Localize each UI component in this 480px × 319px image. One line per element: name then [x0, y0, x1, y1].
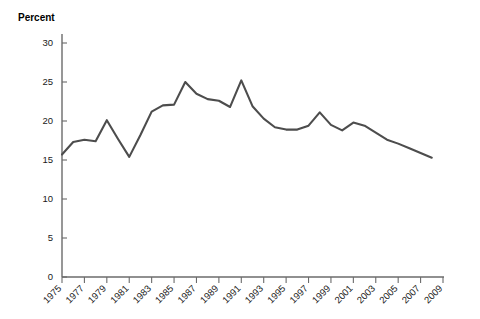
- y-axis-tick-labels: 302520151050: [42, 37, 53, 282]
- x-tick-label: 1997: [287, 283, 310, 306]
- x-tick-label: 1983: [130, 283, 153, 306]
- y-axis-title: Percent: [18, 12, 55, 23]
- x-tick-label: 1975: [41, 283, 64, 306]
- x-tick-label: 2001: [332, 283, 355, 306]
- y-tick-label: 25: [42, 76, 53, 87]
- y-tick-label: 20: [42, 115, 53, 126]
- x-tick-label: 1977: [63, 283, 86, 306]
- x-tick-label: 1985: [153, 283, 176, 306]
- x-tick-label: 1991: [220, 283, 243, 306]
- x-tick-label: 1993: [242, 283, 265, 306]
- x-tick-label: 2007: [399, 283, 422, 306]
- x-axis-tick-marks: [62, 277, 443, 283]
- y-tick-label: 15: [42, 154, 53, 165]
- x-tick-label: 2003: [354, 283, 377, 306]
- x-tick-label: 2005: [377, 283, 400, 306]
- x-tick-label: 1999: [310, 283, 333, 306]
- x-axis-tick-labels: 1975197719791981198319851987198919911993…: [41, 283, 445, 306]
- y-tick-label: 0: [48, 271, 53, 282]
- y-tick-label: 5: [48, 232, 53, 243]
- data-series-line: [62, 80, 432, 157]
- y-tick-label: 10: [42, 193, 53, 204]
- x-tick-label: 1987: [175, 283, 198, 306]
- x-tick-label: 1979: [86, 283, 109, 306]
- y-axis-title-group: Percent: [18, 12, 55, 23]
- x-tick-label: 1995: [265, 283, 288, 306]
- y-axis-tick-marks: [62, 43, 67, 277]
- y-tick-label: 30: [42, 37, 53, 48]
- x-tick-label: 1989: [198, 283, 221, 306]
- line-chart: Percent 302520151050 1975197719791981198…: [0, 0, 480, 319]
- x-tick-label: 1981: [108, 283, 131, 306]
- chart-canvas: Percent 302520151050 1975197719791981198…: [0, 0, 480, 319]
- x-tick-label: 2009: [422, 283, 445, 306]
